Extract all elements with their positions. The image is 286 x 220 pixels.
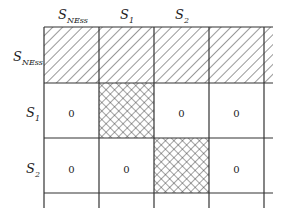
row-header-sub: NEss [22,58,43,67]
row-header-sub: 2 [35,170,40,179]
col-header-sub: NEss [67,16,88,25]
row-header-sness: SNEss [13,50,43,67]
hatched-row-sness [44,27,273,83]
row-header-sub: 1 [35,114,40,123]
row-header-base: S [26,161,35,176]
col-header-s2: S2 [175,8,189,25]
cell-s2-s1: 0 [99,164,154,175]
col-header-base: S [120,7,129,22]
cell-s1-col4: 0 [209,108,264,119]
cell-s1-s2: 0 [154,108,209,119]
col-header-sness: SNEss [58,8,88,25]
cell-s1-sness: 0 [44,108,99,119]
crosshatched-cell-s2 [154,138,209,193]
crosshatched-cell-s1 [99,83,154,138]
col-header-base: S [175,7,184,22]
row-header-s2: S2 [26,162,40,179]
cell-s2-col4: 0 [209,164,264,175]
col-header-s1: S1 [120,8,134,25]
col-header-sub: 1 [129,16,134,25]
col-header-base: S [58,7,67,22]
cell-s2-sness: 0 [44,164,99,175]
row-header-base: S [26,105,35,120]
row-header-s1: S1 [26,106,40,123]
col-header-sub: 2 [184,16,189,25]
row-header-base: S [13,49,22,64]
